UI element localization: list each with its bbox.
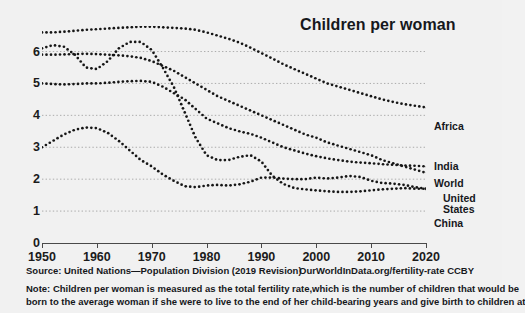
x-axis-tick-2000: 2000 [302, 250, 330, 264]
x-axis-tickmark-1990 [261, 243, 262, 248]
x-axis-tickmark-1950 [42, 243, 43, 248]
source-url[interactable]: OurWorldInData.org/fertility-rate CCBY [299, 265, 474, 276]
series-label-united-states: United States [443, 193, 476, 214]
x-axis-tick-1980: 1980 [193, 250, 221, 264]
x-axis-tickmark-1970 [152, 243, 153, 248]
source-text: Source: United Nations—Population Divisi… [26, 265, 302, 276]
plot-svg [42, 26, 426, 243]
series-label-india: India [434, 161, 459, 172]
series-label-world: World [434, 178, 464, 189]
x-axis-tick-2020: 2020 [412, 250, 440, 264]
x-axis-tickmark-2010 [371, 243, 372, 248]
note-line-1: Note: Children per woman is measured as … [26, 283, 519, 294]
series-label-africa: Africa [434, 121, 464, 132]
series-india [42, 52, 425, 173]
x-axis-tickmark-1980 [207, 243, 208, 248]
series-label-china: China [434, 218, 463, 229]
source-row: Source: United Nations—Population Divisi… [0, 265, 502, 280]
series-china [42, 41, 425, 194]
x-axis-tickmark-2020 [426, 243, 427, 248]
x-axis-tickmark-1960 [97, 243, 98, 248]
x-axis-tick-1970: 1970 [138, 250, 166, 264]
chart-footer: Source: United Nations—Population Divisi… [0, 265, 502, 280]
plot-area [42, 26, 426, 243]
x-axis-line [42, 243, 426, 244]
x-axis-tick-1950: 1950 [28, 250, 56, 264]
note-line-2: born to the average woman if she were to… [26, 296, 525, 307]
x-axis-tick-1960: 1960 [83, 250, 111, 264]
series-label-united-states-line2: States [443, 204, 476, 215]
x-axis-tickmark-2000 [316, 243, 317, 248]
series-label-united-states-line1: United [443, 193, 476, 204]
x-axis-tick-1990: 1990 [248, 250, 276, 264]
x-axis-tick-2010: 2010 [357, 250, 385, 264]
